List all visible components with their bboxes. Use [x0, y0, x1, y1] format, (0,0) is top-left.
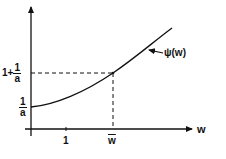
x-tick-label-1: 1 [63, 136, 69, 146]
y-label-inverse-a: 1a [19, 97, 27, 118]
curve-label-pointer [149, 50, 163, 53]
x-axis-label: w [197, 124, 206, 135]
y-label-prefix: 1+ [2, 67, 13, 78]
curve-label-psi: ψ(w) [164, 48, 186, 58]
fraction: 1a [19, 97, 27, 118]
y-label-one-plus-inverse-a: 1+1a [2, 63, 21, 84]
psi-curve [31, 28, 172, 107]
fraction-denominator: a [20, 108, 26, 118]
fraction-denominator: a [14, 74, 20, 84]
x-tick-label-w-bar: w [108, 136, 116, 146]
fraction: 1a [13, 63, 21, 84]
intersection-point [112, 72, 115, 75]
